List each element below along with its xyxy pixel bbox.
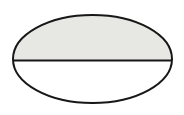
diagram-canvas: Ellipse divided by a horizontal chord [0,0,184,115]
upper-shaded-half [0,0,184,61]
upper-shade-fill [0,0,184,61]
ellipse-diagram-svg: Ellipse divided by a horizontal chord [0,0,184,115]
